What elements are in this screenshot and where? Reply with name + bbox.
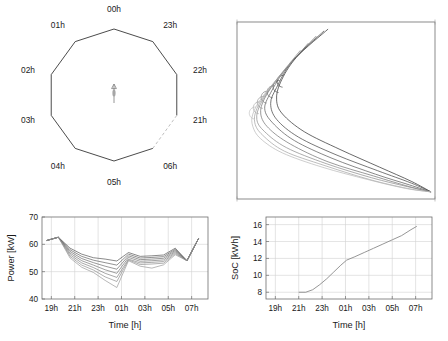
hour-label-00h: 00h	[107, 4, 121, 14]
curve-curve-5	[257, 50, 431, 192]
hour-label-23h: 23h	[163, 20, 177, 30]
y-tick-label-10: 10	[253, 271, 263, 280]
x-tick-label-07h: 07h	[409, 304, 423, 313]
hour-label-01h: 01h	[51, 20, 65, 30]
power-y-tick-labels: 40506070	[29, 213, 39, 304]
x-tick-label-01h: 01h	[339, 304, 353, 313]
y-tick-label-40: 40	[29, 295, 39, 304]
x-tick-label-03h: 03h	[362, 304, 376, 313]
power-y-axis-title: Power [kW]	[6, 235, 16, 282]
power-x-tick-labels: 19h21h23h01h03h05h07h	[45, 304, 199, 313]
polygon-edge-06h-05h	[114, 148, 153, 161]
soc-y-tick-labels: 810121416	[253, 221, 263, 298]
trajectory-curves-svg	[224, 0, 448, 205]
y-tick-label-8: 8	[257, 288, 262, 297]
x-tick-label-05h: 05h	[161, 304, 175, 313]
center-marker-icon	[112, 84, 117, 103]
polygon-edge-01h-00h	[75, 29, 114, 42]
polygon-edge-00h-23h	[114, 29, 153, 42]
x-tick-label-23h: 23h	[315, 304, 329, 313]
curves-corner-ticks	[237, 20, 435, 202]
soc-gridlines	[266, 217, 432, 299]
curves-axis-box	[237, 22, 435, 199]
y-tick-label-60: 60	[29, 240, 39, 249]
hour-label-04h: 04h	[51, 161, 65, 171]
curve-curve-2	[271, 31, 431, 192]
hour-label-06h: 06h	[163, 161, 177, 171]
power-tickmarks	[42, 217, 192, 299]
x-tick-label-21h: 21h	[292, 304, 306, 313]
y-tick-label-16: 16	[253, 221, 263, 230]
y-tick-label-70: 70	[29, 213, 39, 222]
x-tick-label-23h: 23h	[91, 304, 105, 313]
soc-tickmarks	[266, 225, 416, 299]
soc-x-axis-title: Time [h]	[333, 320, 366, 330]
soc-series-line	[299, 226, 417, 292]
trajectory-curves-panel	[224, 0, 448, 205]
polygon-edge-02h-01h	[51, 42, 75, 75]
soc-axis-box	[266, 217, 432, 299]
polygon-edge-04h-03h	[51, 115, 75, 148]
hour-label-22h: 22h	[193, 65, 207, 75]
y-tick-label-12: 12	[253, 254, 263, 263]
soc-x-tick-labels: 19h21h23h01h03h05h07h	[269, 304, 423, 313]
hour-polygon-panel: 00h23h22h21h06h05h04h03h02h01h	[0, 0, 224, 205]
power-chart-panel: 19h21h23h01h03h05h07h 40506070 Time [h] …	[0, 205, 224, 341]
curve-series-group	[249, 29, 431, 192]
power-chart-svg: 19h21h23h01h03h05h07h 40506070 Time [h] …	[0, 205, 224, 341]
power-band-series	[47, 237, 199, 287]
y-tick-label-50: 50	[29, 268, 39, 277]
series-soc-profile	[299, 226, 417, 292]
x-tick-label-01h: 01h	[115, 304, 129, 313]
hour-label-03h: 03h	[21, 115, 35, 125]
y-tick-label-14: 14	[253, 238, 263, 247]
x-tick-label-05h: 05h	[385, 304, 399, 313]
polygon-edge-05h-04h	[75, 148, 114, 161]
x-tick-label-19h: 19h	[269, 304, 283, 313]
x-tick-label-07h: 07h	[185, 304, 199, 313]
power-x-axis-title: Time [h]	[109, 320, 142, 330]
figure-container: 00h23h22h21h06h05h04h03h02h01h 19h21h23h…	[0, 0, 448, 341]
hour-polygon-svg: 00h23h22h21h06h05h04h03h02h01h	[0, 0, 224, 205]
curve-curve-6	[254, 61, 431, 192]
soc-chart-svg: 19h21h23h01h03h05h07h 810121416 Time [h]…	[224, 205, 448, 341]
soc-chart-panel: 19h21h23h01h03h05h07h 810121416 Time [h]…	[224, 205, 448, 341]
x-tick-label-19h: 19h	[45, 304, 59, 313]
polygon-edge-23h-22h	[153, 42, 177, 75]
curve-curve-7	[252, 72, 431, 192]
hour-label-02h: 02h	[21, 65, 35, 75]
hour-label-21h: 21h	[193, 115, 207, 125]
x-tick-label-03h: 03h	[138, 304, 152, 313]
x-tick-label-21h: 21h	[68, 304, 82, 313]
hour-label-05h: 05h	[107, 177, 121, 187]
soc-y-axis-title: SoC [kWh]	[230, 236, 240, 280]
polygon-edge-21h-06h	[153, 115, 177, 148]
